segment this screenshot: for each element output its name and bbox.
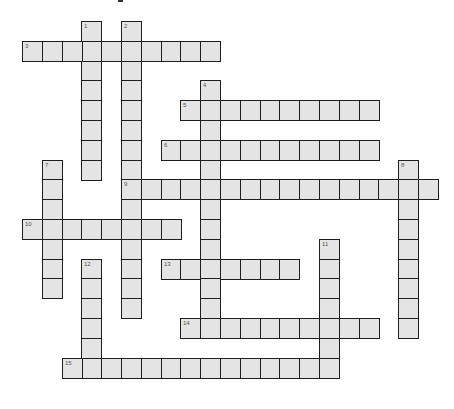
crossword-cell[interactable] [200,239,221,260]
crossword-cell[interactable] [81,358,102,379]
crossword-cell[interactable] [180,140,201,161]
crossword-cell[interactable] [319,278,340,299]
crossword-cell[interactable] [339,318,360,339]
crossword-cell[interactable]: 14 [180,318,201,339]
crossword-cell[interactable] [220,100,241,121]
crossword-cell[interactable] [240,318,261,339]
crossword-cell[interactable] [240,179,261,200]
crossword-cell[interactable] [220,140,241,161]
crossword-cell[interactable] [220,318,241,339]
crossword-cell[interactable] [42,259,63,280]
crossword-cell[interactable] [220,259,241,280]
crossword-cell[interactable] [260,179,281,200]
crossword-cell[interactable] [121,199,142,220]
crossword-cell[interactable] [279,179,300,200]
crossword-cell[interactable] [42,219,63,240]
crossword-cell[interactable] [299,179,320,200]
crossword-cell[interactable] [121,259,142,280]
crossword-cell[interactable]: 4 [200,80,221,101]
crossword-cell[interactable] [359,179,380,200]
crossword-cell[interactable] [161,41,182,62]
crossword-cell[interactable]: 15 [62,358,83,379]
crossword-cell[interactable] [200,41,221,62]
crossword-cell[interactable] [240,100,261,121]
crossword-cell[interactable] [279,140,300,161]
crossword-cell[interactable] [398,298,419,319]
crossword-cell[interactable] [121,140,142,161]
crossword-cell[interactable] [81,278,102,299]
crossword-cell[interactable] [299,100,320,121]
crossword-cell[interactable] [299,140,320,161]
crossword-cell[interactable] [359,140,380,161]
crossword-cell[interactable]: 11 [319,239,340,260]
crossword-cell[interactable] [121,80,142,101]
crossword-cell[interactable] [378,179,399,200]
crossword-cell[interactable]: 13 [161,259,182,280]
crossword-cell[interactable] [81,80,102,101]
crossword-cell[interactable] [339,100,360,121]
crossword-cell[interactable] [141,41,162,62]
crossword-cell[interactable] [319,100,340,121]
crossword-cell[interactable]: 7 [42,160,63,181]
crossword-cell[interactable] [200,259,221,280]
crossword-cell[interactable] [42,278,63,299]
crossword-cell[interactable] [81,41,102,62]
crossword-cell[interactable] [200,120,221,141]
crossword-cell[interactable] [161,219,182,240]
crossword-cell[interactable] [180,179,201,200]
crossword-cell[interactable] [161,358,182,379]
crossword-cell[interactable] [200,140,221,161]
crossword-cell[interactable]: 1 [81,21,102,42]
crossword-cell[interactable]: 12 [81,259,102,280]
crossword-cell[interactable] [180,259,201,280]
crossword-cell[interactable] [42,41,63,62]
crossword-cell[interactable] [240,259,261,280]
crossword-cell[interactable] [200,318,221,339]
crossword-cell[interactable]: 9 [121,179,142,200]
crossword-cell[interactable] [398,239,419,260]
crossword-cell[interactable] [62,219,83,240]
crossword-cell[interactable] [81,219,102,240]
crossword-cell[interactable] [121,100,142,121]
crossword-cell[interactable] [81,140,102,161]
crossword-cell[interactable] [319,140,340,161]
crossword-cell[interactable] [161,179,182,200]
crossword-cell[interactable] [319,298,340,319]
crossword-cell[interactable] [260,318,281,339]
crossword-cell[interactable] [121,298,142,319]
crossword-cell[interactable] [279,259,300,280]
crossword-cell[interactable] [299,318,320,339]
crossword-cell[interactable]: 10 [22,219,43,240]
crossword-cell[interactable]: 2 [121,21,142,42]
crossword-cell[interactable] [418,179,439,200]
crossword-cell[interactable] [81,120,102,141]
crossword-cell[interactable] [359,100,380,121]
crossword-cell[interactable] [121,278,142,299]
crossword-cell[interactable] [260,140,281,161]
crossword-cell[interactable] [299,358,320,379]
crossword-cell[interactable] [279,318,300,339]
crossword-cell[interactable] [121,239,142,260]
crossword-cell[interactable] [180,358,201,379]
crossword-cell[interactable] [200,199,221,220]
crossword-cell[interactable] [339,140,360,161]
crossword-cell[interactable] [81,338,102,359]
crossword-cell[interactable] [398,318,419,339]
crossword-cell[interactable]: 5 [180,100,201,121]
crossword-cell[interactable] [398,199,419,220]
crossword-cell[interactable] [42,199,63,220]
crossword-cell[interactable] [121,41,142,62]
crossword-cell[interactable] [121,358,142,379]
crossword-cell[interactable] [398,179,419,200]
crossword-cell[interactable] [101,41,122,62]
crossword-cell[interactable] [319,318,340,339]
crossword-cell[interactable] [240,358,261,379]
crossword-cell[interactable] [319,259,340,280]
crossword-cell[interactable] [141,219,162,240]
crossword-cell[interactable] [121,120,142,141]
crossword-cell[interactable] [42,179,63,200]
crossword-cell[interactable]: 8 [398,160,419,181]
crossword-cell[interactable] [121,61,142,82]
crossword-cell[interactable] [319,338,340,359]
crossword-cell[interactable] [141,358,162,379]
